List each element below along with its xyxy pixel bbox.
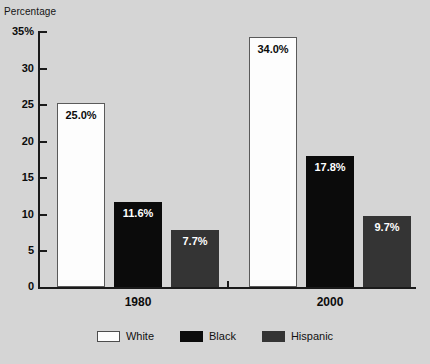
legend-item-hispanic[interactable]: Hispanic — [262, 330, 333, 342]
bar-label-1980-white: 25.0% — [58, 109, 104, 121]
y-axis-tick-15 — [40, 177, 47, 179]
bar-chart: Percentage 35% 30 25 20 15 10 5 0 25.0% … — [0, 0, 430, 364]
y-axis-tick-5 — [40, 250, 47, 252]
y-axis-tick-25 — [40, 104, 47, 106]
legend-item-black[interactable]: Black — [180, 330, 236, 342]
bar-label-1980-black: 11.6% — [114, 207, 162, 219]
y-axis-tick-label-25: 25 — [2, 99, 34, 110]
bar-label-2000-hispanic: 9.7% — [363, 221, 411, 233]
legend-swatch-black-icon — [180, 331, 203, 342]
bar-1980-hispanic[interactable]: 7.7% — [171, 230, 219, 287]
bar-label-1980-hispanic: 7.7% — [171, 235, 219, 247]
legend-label-hispanic: Hispanic — [291, 330, 333, 342]
legend-label-white: White — [126, 330, 154, 342]
bar-1980-black[interactable]: 11.6% — [114, 202, 162, 287]
bar-1980-white[interactable]: 25.0% — [57, 103, 105, 287]
legend: White Black Hispanic — [0, 330, 430, 342]
plot-area: 35% 30 25 20 15 10 5 0 25.0% 11.6% 7.7% … — [38, 31, 416, 289]
x-axis-tick-mid — [227, 281, 229, 289]
bar-label-2000-white: 34.0% — [250, 43, 296, 55]
y-axis-tick-label-30: 30 — [2, 63, 34, 74]
bar-2000-black[interactable]: 17.8% — [306, 156, 354, 287]
legend-label-black: Black — [209, 330, 236, 342]
legend-swatch-white-icon — [97, 331, 120, 342]
y-axis-tick-35 — [40, 31, 47, 33]
y-axis-tick-label-0: 0 — [2, 281, 34, 292]
y-axis-tick-label-15: 15 — [2, 172, 34, 183]
y-axis-tick-label-35: 35% — [2, 26, 34, 37]
y-axis-tick-30 — [40, 68, 47, 70]
bar-2000-white[interactable]: 34.0% — [249, 37, 297, 287]
legend-item-white[interactable]: White — [97, 330, 154, 342]
x-axis-group-label-1980: 1980 — [125, 295, 152, 309]
y-axis-title: Percentage — [4, 6, 56, 17]
bar-2000-hispanic[interactable]: 9.7% — [363, 216, 411, 287]
y-axis-tick-10 — [40, 214, 47, 216]
y-axis-tick-label-10: 10 — [2, 209, 34, 220]
y-axis-tick-20 — [40, 141, 47, 143]
x-axis-group-label-2000: 2000 — [317, 295, 344, 309]
y-axis-tick-label-20: 20 — [2, 136, 34, 147]
legend-swatch-hispanic-icon — [262, 331, 285, 342]
bar-label-2000-black: 17.8% — [306, 161, 354, 173]
y-axis-tick-label-5: 5 — [2, 245, 34, 256]
